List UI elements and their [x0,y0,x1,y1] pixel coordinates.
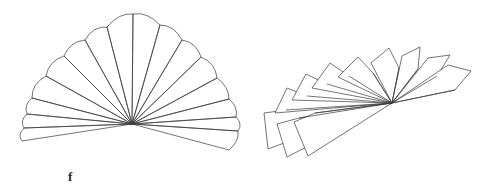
fan-diagram-svg [0,0,498,191]
figure-canvas: f [0,0,498,191]
figure-caption-label: f [68,170,72,183]
